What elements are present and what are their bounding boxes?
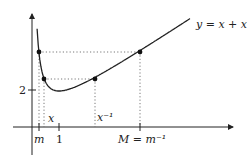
x-inverse-label: x⁻¹ [97, 111, 113, 124]
marked-points [37, 50, 143, 82]
x-label: x [48, 112, 55, 125]
point-m [37, 50, 42, 55]
function-curve [37, 19, 190, 91]
one-label: 1 [56, 133, 63, 146]
point-M [138, 50, 143, 55]
point-x [42, 77, 47, 82]
m-label: m [34, 133, 44, 146]
ticks [28, 90, 140, 131]
M-label: M = m⁻¹ [117, 133, 166, 146]
y-tick-label-2: 2 [19, 84, 26, 97]
function-diagram: y = x + x⁻¹ 2 x x⁻¹ m 1 M = m⁻¹ [0, 0, 247, 163]
curve-label: y = x + x⁻¹ [195, 18, 247, 31]
point-x-inverse [93, 77, 98, 82]
